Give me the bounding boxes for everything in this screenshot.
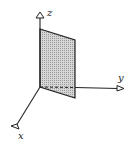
x-axis	[16, 87, 40, 126]
x-axis-label: x	[18, 130, 24, 141]
y-axis-label: y	[117, 72, 124, 83]
z-axis-label: z	[46, 7, 53, 18]
z-axis-arrow-icon	[36, 12, 44, 18]
coordinate-diagram: z y x	[0, 0, 133, 151]
y-axis	[75, 88, 118, 89]
y-axis-arrow-icon	[117, 86, 124, 92]
x-axis-arrow-icon	[11, 124, 19, 129]
